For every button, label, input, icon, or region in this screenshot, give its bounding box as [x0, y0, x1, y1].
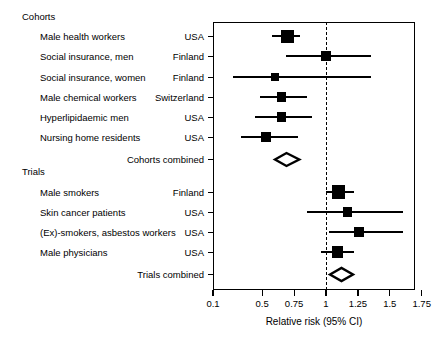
x-axis-tick — [212, 290, 213, 296]
x-axis-tick — [325, 290, 326, 296]
plot-area — [213, 22, 415, 290]
x-axis-tick — [294, 290, 295, 296]
confidence-interval-line — [233, 76, 371, 78]
y-axis-tick — [208, 212, 214, 213]
study-country-label: Finland — [173, 51, 204, 62]
summary-diamond — [272, 151, 302, 168]
y-axis-tick — [208, 232, 214, 233]
study-name-label: (Ex)-smokers, asbestos workers — [40, 227, 176, 238]
study-name-label: Social insurance, women — [40, 72, 146, 83]
point-estimate-marker — [343, 207, 353, 217]
y-axis-tick — [208, 252, 214, 253]
study-name-label: Social insurance, men — [40, 51, 133, 62]
summary-label: Cohorts combined — [127, 154, 204, 165]
study-name-label: Skin cancer patients — [40, 207, 126, 218]
x-axis-tick-label: 1 — [323, 298, 328, 309]
forest-plot-figure: Cohorts Trials Male health workersUSASoc… — [0, 0, 441, 341]
x-axis-tick — [262, 290, 263, 296]
x-axis-tick-label: 0.5 — [256, 298, 269, 309]
confidence-interval-line — [329, 231, 403, 233]
study-name-label: Male smokers — [40, 187, 99, 198]
study-name-label: Hyperlipidaemic men — [40, 112, 129, 123]
study-name-label: Male health workers — [40, 31, 125, 42]
y-axis-tick — [208, 274, 214, 275]
y-axis-tick — [208, 137, 214, 138]
y-axis-tick — [208, 36, 214, 37]
point-estimate-marker — [261, 132, 270, 141]
study-country-label: USA — [184, 207, 204, 218]
summary-diamond — [327, 266, 356, 283]
study-name-label: Male physicians — [40, 247, 108, 258]
study-name-label: Male chemical workers — [40, 92, 137, 103]
study-country-label: Finland — [173, 187, 204, 198]
point-estimate-marker — [277, 92, 287, 102]
x-axis-tick — [357, 290, 358, 296]
x-axis-title: Relative risk (95% CI) — [266, 316, 363, 327]
study-name-label: Nursing home residents — [40, 132, 140, 143]
y-axis-tick — [208, 97, 214, 98]
y-axis-tick — [208, 192, 214, 193]
study-country-label: USA — [184, 132, 204, 143]
study-country-label: Switzerland — [155, 92, 204, 103]
group-heading-trials: Trials — [22, 167, 45, 177]
study-country-label: USA — [184, 247, 204, 258]
x-axis-tick-label: 1.5 — [383, 298, 396, 309]
study-country-label: Finland — [173, 72, 204, 83]
group-heading-cohorts: Cohorts — [22, 12, 55, 22]
study-country-label: USA — [184, 227, 204, 238]
point-estimate-marker — [277, 112, 287, 122]
study-country-label: USA — [184, 31, 204, 42]
y-axis-tick — [208, 56, 214, 57]
x-axis-tick — [421, 290, 422, 296]
y-axis-tick — [208, 77, 214, 78]
x-axis-tick — [389, 290, 390, 296]
point-estimate-marker — [332, 185, 345, 198]
x-axis-tick-label: 1.25 — [349, 298, 368, 309]
point-estimate-marker — [354, 227, 364, 237]
y-axis-tick — [208, 117, 214, 118]
x-axis-tick-label: 0.1 — [206, 298, 219, 309]
summary-label: Trials combined — [137, 269, 204, 280]
point-estimate-marker — [271, 73, 280, 82]
y-axis-tick — [208, 159, 214, 160]
study-country-label: USA — [184, 112, 204, 123]
confidence-interval-line — [307, 211, 403, 213]
x-axis-tick-label: 1.75 — [412, 298, 431, 309]
x-axis-tick-label: 0.75 — [285, 298, 304, 309]
point-estimate-marker — [332, 246, 343, 257]
point-estimate-marker — [281, 30, 294, 43]
reference-line-at-1 — [326, 22, 327, 290]
